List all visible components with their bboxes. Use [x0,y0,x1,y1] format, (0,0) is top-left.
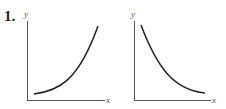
right-y-label: y [130,9,135,19]
left-y-label: y [23,9,28,19]
left-curve [34,26,98,94]
graphs-canvas: y x y x [0,0,226,109]
right-graph: y x [130,9,216,105]
right-curve [141,25,205,93]
left-x-label: x [105,95,110,105]
right-x-label: x [211,95,216,105]
left-graph: y x [23,9,110,105]
